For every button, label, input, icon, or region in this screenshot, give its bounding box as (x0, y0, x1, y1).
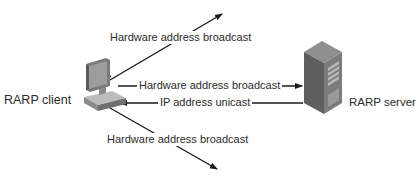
desktop-computer-icon (84, 58, 126, 111)
tower-server-icon (304, 41, 342, 114)
broadcast-down-label: Hardware address broadcast (105, 133, 250, 146)
broadcast-to-server-label: Hardware address broadcast (137, 79, 282, 92)
rarp-client-label: RARP client (4, 93, 71, 107)
broadcast-up-label: Hardware address broadcast (108, 31, 253, 44)
rarp-server-label: RARP server (349, 95, 416, 109)
unicast-reply-label: IP address unicast (158, 96, 252, 109)
broadcast-up-arrow (110, 14, 222, 80)
